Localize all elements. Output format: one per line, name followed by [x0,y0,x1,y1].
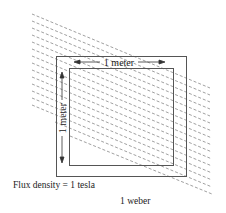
flux-label: 1 weber [120,196,151,206]
area-square [70,69,174,166]
flux-diagram: 1 meter 1 meter Flux density = 1 tesla 1… [0,0,226,213]
width-label: 1 meter [104,57,135,68]
flux-density-label: Flux density = 1 tesla [13,180,96,190]
height-label: 1 meter [57,102,68,133]
